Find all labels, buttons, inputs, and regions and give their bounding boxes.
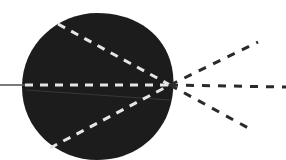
focal-point (168, 83, 171, 86)
lower-diverging-ray (170, 85, 250, 129)
outgoing-rays (170, 42, 286, 129)
ray-diagram-canvas (0, 0, 286, 160)
axis-diverging-ray (170, 85, 286, 87)
ray-diagram (0, 0, 286, 160)
upper-diverging-ray (170, 42, 258, 85)
